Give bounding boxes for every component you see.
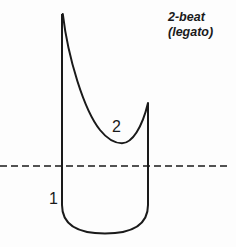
caption-subtitle: (legato) [168, 25, 213, 40]
breath-curve-diagram: 2-beat (legato) 1 2 [0, 0, 236, 247]
caption-title: 2-beat [168, 10, 213, 25]
caption-block: 2-beat (legato) [168, 10, 213, 40]
beat-label-2: 2 [112, 118, 121, 136]
decay-curve-path [63, 14, 148, 143]
beat-label-1: 1 [49, 190, 58, 208]
breath-envelope-path [62, 14, 148, 234]
